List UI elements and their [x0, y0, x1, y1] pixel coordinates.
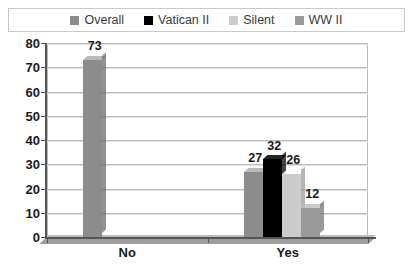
legend-item-ww-ii[interactable]: WW II [295, 14, 343, 27]
y-tick-label-70: 70 [6, 61, 40, 74]
y-tick-mark-20 [41, 189, 46, 190]
x-tick-0 [47, 237, 48, 243]
bar-overall-yes[interactable] [244, 172, 263, 237]
y-tick-label-0: 0 [6, 231, 40, 244]
bar-value-label-vatican-ii-yes: 32 [267, 140, 281, 153]
y-tick-mark-70 [41, 67, 46, 68]
bar-chart: Overall Vatican II Silent WW II 73273226… [0, 0, 420, 272]
bar-front-face [301, 208, 320, 237]
legend-swatch-silent [229, 16, 238, 25]
bar-front-face [282, 174, 301, 237]
y-tick-label-60: 60 [6, 86, 40, 99]
y-tick-label-20: 20 [6, 183, 40, 196]
legend-swatch-overall [70, 16, 79, 25]
bar-side-face [102, 52, 106, 233]
y-tick-label-30: 30 [6, 158, 40, 171]
x-tick-end [368, 237, 369, 243]
bar-front-face [263, 159, 282, 237]
y-tick-mark-30 [41, 164, 46, 165]
x-axis-line [45, 237, 376, 239]
bar-value-label-silent-yes: 26 [286, 154, 300, 167]
plot-region: 7327322612 01020304050607080 NoYes [0, 38, 420, 272]
y-tick-mark-0 [41, 237, 46, 238]
bar-overall-no[interactable] [83, 60, 102, 237]
bar-value-label-ww-ii-yes: 12 [305, 188, 319, 201]
x-tick-1 [208, 237, 209, 243]
bar-front-face [244, 172, 263, 237]
y-tick-mark-40 [41, 140, 46, 141]
bar-value-label-overall-no: 73 [88, 40, 102, 53]
legend-item-vatican-ii[interactable]: Vatican II [144, 14, 209, 27]
legend-item-silent[interactable]: Silent [229, 14, 274, 27]
x-category-label-yes: Yes [248, 246, 328, 259]
bar-side-face [320, 200, 324, 233]
legend-label-overall: Overall [84, 14, 124, 27]
bar-vatican-ii-yes[interactable] [263, 159, 282, 237]
legend-swatch-vatican-ii [144, 16, 153, 25]
y-tick-mark-10 [41, 213, 46, 214]
legend-swatch-ww-ii [295, 16, 304, 25]
y-tick-mark-60 [41, 92, 46, 93]
y-tick-mark-80 [41, 43, 46, 44]
x-category-label-no: No [87, 246, 167, 259]
chart-legend: Overall Vatican II Silent WW II [8, 8, 405, 32]
bar-front-face [83, 60, 102, 237]
y-tick-label-50: 50 [6, 110, 40, 123]
y-tick-label-80: 80 [6, 37, 40, 50]
y-axis-labels: 01020304050607080 [0, 43, 40, 238]
y-tick-label-10: 10 [6, 207, 40, 220]
bars-layer: 7327322612 [47, 43, 368, 237]
legend-item-overall[interactable]: Overall [70, 14, 124, 27]
bar-ww-ii-yes[interactable] [301, 208, 320, 237]
legend-label-silent: Silent [243, 14, 274, 27]
bar-value-label-overall-yes: 27 [248, 152, 262, 165]
y-tick-mark-50 [41, 116, 46, 117]
legend-label-ww-ii: WW II [309, 14, 343, 27]
legend-label-vatican-ii: Vatican II [158, 14, 209, 27]
y-tick-label-40: 40 [6, 134, 40, 147]
bar-silent-yes[interactable] [282, 174, 301, 237]
